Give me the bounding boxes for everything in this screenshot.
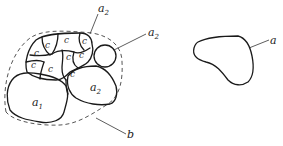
cell-labels: c c c c c c c c c — [31, 35, 87, 79]
svg-text:c: c — [48, 64, 53, 74]
label-b: b — [127, 128, 134, 141]
label-a2-right: a2 — [148, 26, 160, 41]
leader-a2-right — [114, 34, 146, 50]
svg-text:c: c — [31, 60, 36, 70]
svg-text:c: c — [64, 35, 69, 45]
label-a2-top: a2 — [98, 2, 110, 17]
label-a1: a1 — [32, 96, 43, 111]
svg-text:c: c — [82, 36, 87, 46]
svg-text:c: c — [34, 48, 39, 58]
particle-a — [194, 36, 254, 85]
svg-text:c: c — [79, 50, 84, 60]
leader-a — [249, 40, 269, 48]
label-a: a — [270, 34, 277, 47]
label-a2-lower: a2 — [90, 81, 102, 96]
diagram-canvas: c c c c c c c c c a2 a2 a1 a2 b a — [0, 0, 283, 146]
small-particle-a2 — [94, 45, 116, 67]
leader-a2-top — [90, 14, 98, 34]
svg-text:c: c — [45, 40, 50, 50]
svg-text:c: c — [66, 52, 71, 62]
leader-b — [96, 118, 126, 134]
